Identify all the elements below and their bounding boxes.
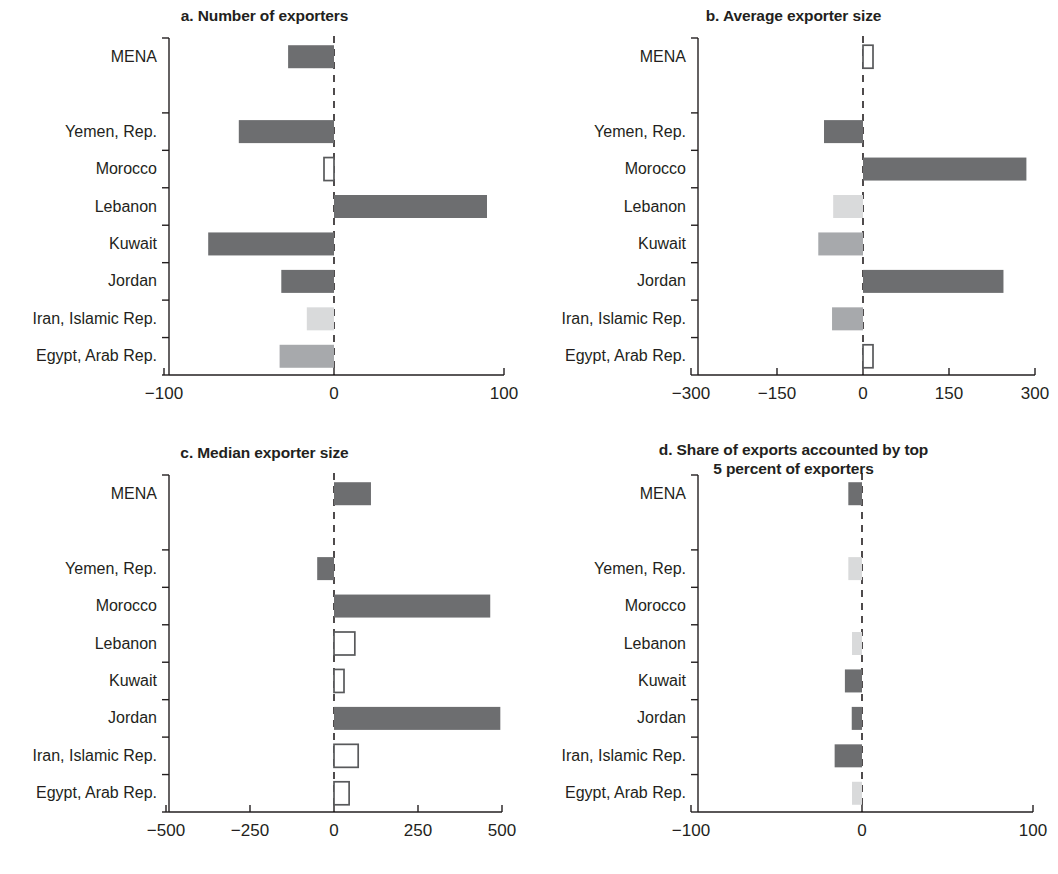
panel-b: b. Average exporter size MENAYemen, Rep.… — [529, 0, 1058, 437]
bar — [334, 595, 490, 618]
bar — [852, 632, 862, 655]
y-axis-category-label: Egypt, Arab Rep. — [36, 785, 157, 801]
y-axis-category-label: MENA — [640, 486, 686, 502]
y-axis-category-label: Iran, Islamic Rep. — [33, 748, 157, 764]
y-axis-category-label: Morocco — [96, 161, 157, 177]
panel-d: d. Share of exports accounted by top 5 p… — [529, 437, 1058, 874]
y-axis-category-label: Iran, Islamic Rep. — [33, 311, 157, 327]
bar — [334, 195, 487, 218]
y-axis-category-label: Morocco — [96, 598, 157, 614]
bar — [208, 232, 334, 255]
y-axis-category-label: Yemen, Rep. — [65, 561, 157, 577]
y-axis-category-label: Kuwait — [638, 236, 686, 252]
y-axis-category-label: MENA — [111, 486, 157, 502]
y-axis-category-label: Jordan — [637, 273, 686, 289]
figure-root: a. Number of exporters MENAYemen, Rep.Mo… — [0, 0, 1058, 874]
bar — [307, 307, 334, 330]
x-axis-tick-label: −100 — [104, 385, 224, 402]
bar — [824, 120, 863, 143]
x-axis-tick-label: 0 — [802, 822, 922, 839]
y-axis-category-label: Morocco — [625, 161, 686, 177]
y-axis-category-label: Morocco — [625, 598, 686, 614]
y-axis-category-label: Lebanon — [95, 636, 157, 652]
bar — [852, 707, 862, 730]
bar — [818, 232, 863, 255]
bar — [288, 45, 334, 68]
y-axis-category-label: Yemen, Rep. — [594, 124, 686, 140]
panel-c: c. Median exporter size MENAYemen, Rep.M… — [0, 437, 529, 874]
y-axis-category-label: MENA — [111, 49, 157, 65]
bar — [833, 195, 863, 218]
panel-a-plot: MENAYemen, Rep.MoroccoLebanonKuwaitJorda… — [0, 0, 529, 437]
panel-d-plot: MENAYemen, Rep.MoroccoLebanonKuwaitJorda… — [529, 437, 1058, 874]
y-axis-category-label: Lebanon — [95, 199, 157, 215]
plot-area — [0, 437, 529, 874]
bar — [324, 158, 334, 181]
y-axis-category-label: Lebanon — [624, 199, 686, 215]
y-axis-category-label: Jordan — [108, 710, 157, 726]
bar — [334, 744, 358, 767]
y-axis-category-label: Kuwait — [109, 236, 157, 252]
y-axis-category-label: Iran, Islamic Rep. — [562, 311, 686, 327]
bar — [334, 782, 349, 805]
bar — [334, 632, 355, 655]
bar — [239, 120, 334, 143]
x-axis-tick-label: 100 — [973, 822, 1058, 839]
plot-area — [0, 0, 529, 437]
x-axis-tick-label: 0 — [274, 385, 394, 402]
panel-a: a. Number of exporters MENAYemen, Rep.Mo… — [0, 0, 529, 437]
panel-b-plot: MENAYemen, Rep.MoroccoLebanonKuwaitJorda… — [529, 0, 1058, 437]
y-axis-category-label: Egypt, Arab Rep. — [565, 348, 686, 364]
bar — [317, 557, 334, 580]
bar — [852, 782, 862, 805]
bar — [845, 669, 862, 692]
panel-c-plot: MENAYemen, Rep.MoroccoLebanonKuwaitJorda… — [0, 437, 529, 874]
y-axis-category-label: Lebanon — [624, 636, 686, 652]
plot-area — [529, 437, 1058, 874]
bar — [832, 307, 863, 330]
plot-area — [529, 0, 1058, 437]
bar — [848, 482, 862, 505]
bar — [280, 345, 334, 368]
y-axis-category-label: Kuwait — [109, 673, 157, 689]
y-axis-category-label: Jordan — [108, 273, 157, 289]
y-axis-category-label: Egypt, Arab Rep. — [565, 785, 686, 801]
bar — [835, 744, 862, 767]
y-axis-category-label: Jordan — [637, 710, 686, 726]
bar — [334, 707, 500, 730]
x-axis-tick-label: 300 — [975, 385, 1058, 402]
bar — [334, 669, 344, 692]
y-axis-category-label: MENA — [640, 49, 686, 65]
y-axis-category-label: Egypt, Arab Rep. — [36, 348, 157, 364]
bar — [863, 158, 1026, 181]
y-axis-category-label: Iran, Islamic Rep. — [562, 748, 686, 764]
bar — [863, 345, 873, 368]
bar — [863, 270, 1003, 293]
bar — [863, 45, 873, 68]
bar — [848, 557, 862, 580]
y-axis-category-label: Kuwait — [638, 673, 686, 689]
y-axis-category-label: Yemen, Rep. — [594, 561, 686, 577]
bar — [281, 270, 334, 293]
bar — [334, 482, 371, 505]
x-axis-tick-label: −100 — [631, 822, 751, 839]
y-axis-category-label: Yemen, Rep. — [65, 124, 157, 140]
